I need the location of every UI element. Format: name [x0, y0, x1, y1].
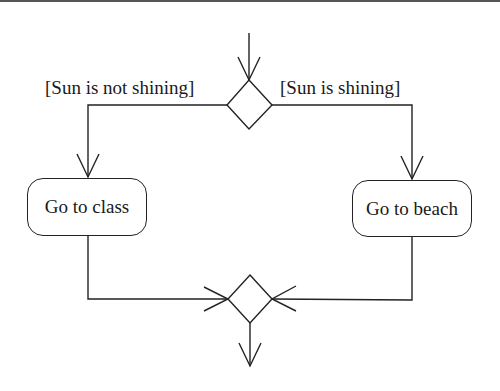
incoming-arrow — [238, 33, 260, 80]
guard-sun-not-shining: [Sun is not shining] — [45, 78, 194, 97]
action-go-to-class: Go to class — [27, 178, 147, 236]
action-go-to-beach: Go to beach — [352, 180, 472, 237]
left-branch-arrow — [77, 105, 227, 177]
outgoing-arrow — [239, 323, 261, 366]
beach-to-merge-arrow — [272, 237, 412, 311]
merge-node — [228, 275, 272, 323]
right-branch-arrow — [272, 105, 423, 179]
decision-node — [227, 80, 272, 129]
class-to-merge-arrow — [88, 236, 228, 311]
guard-sun-shining: [Sun is shining] — [280, 78, 400, 97]
action-label: Go to beach — [366, 198, 458, 220]
action-label: Go to class — [45, 196, 129, 218]
